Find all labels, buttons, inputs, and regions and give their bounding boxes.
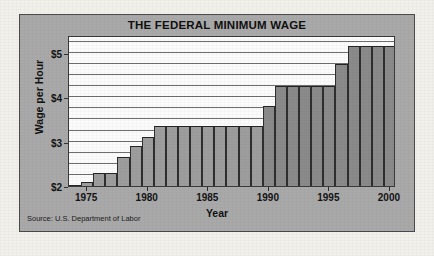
bar xyxy=(81,182,93,186)
bar xyxy=(239,126,251,186)
x-axis-tick-label: 1985 xyxy=(196,192,218,203)
bar xyxy=(384,46,395,186)
bar xyxy=(214,126,226,186)
x-axis-tick-mark xyxy=(86,187,87,191)
bar xyxy=(251,126,263,186)
bar xyxy=(69,185,81,186)
plot-area xyxy=(68,36,395,187)
bar xyxy=(93,173,105,186)
bar xyxy=(178,126,190,186)
x-axis-tick-mark xyxy=(328,187,329,191)
chart-figure-panel: THE FEDERAL MINIMUM WAGE Wage per Hour Y… xyxy=(19,14,415,232)
bar xyxy=(360,46,372,186)
bar xyxy=(166,126,178,186)
bar xyxy=(311,86,323,186)
x-axis-tick-label: 1980 xyxy=(136,192,158,203)
y-axis-tick-label: $3 xyxy=(51,137,62,148)
x-axis-tick-label: 1990 xyxy=(257,192,279,203)
x-axis-tick-mark xyxy=(207,187,208,191)
bar xyxy=(154,126,166,186)
x-axis-tick-label: 1995 xyxy=(317,192,339,203)
gridline xyxy=(69,52,394,53)
y-axis-tick-label: $2 xyxy=(51,182,62,193)
bar xyxy=(202,126,214,186)
source-note: Source: U.S. Department of Labor xyxy=(27,214,140,223)
x-axis-tick-mark xyxy=(268,187,269,191)
chart-screenshot: THE FEDERAL MINIMUM WAGE Wage per Hour Y… xyxy=(0,0,434,256)
bar xyxy=(299,86,311,186)
bar xyxy=(117,157,129,186)
x-axis-tick-label: 2000 xyxy=(378,192,400,203)
x-axis-tick-mark xyxy=(389,187,390,191)
gridline xyxy=(69,41,394,42)
bar xyxy=(372,46,384,186)
bar xyxy=(190,126,202,186)
bar xyxy=(323,86,335,186)
y-axis-tick-mark xyxy=(64,187,68,188)
bar xyxy=(275,86,287,186)
bar xyxy=(226,126,238,186)
x-axis-tick-label: 1975 xyxy=(75,192,97,203)
bar xyxy=(130,146,142,186)
bar xyxy=(287,86,299,186)
bar xyxy=(348,46,360,186)
y-axis-tick-label: $5 xyxy=(51,48,62,59)
bar xyxy=(142,137,154,186)
bar xyxy=(263,106,275,186)
y-axis-label: Wage per Hour xyxy=(33,42,45,152)
y-axis-tick-label: $4 xyxy=(51,93,62,104)
chart-title: THE FEDERAL MINIMUM WAGE xyxy=(20,19,414,31)
bar xyxy=(335,64,347,186)
x-axis-tick-mark xyxy=(147,187,148,191)
bar xyxy=(105,173,117,186)
